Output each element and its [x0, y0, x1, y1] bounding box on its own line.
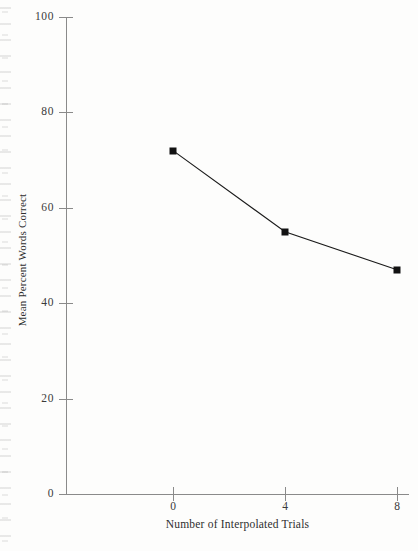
y-axis-line [66, 17, 67, 495]
x-tick-label: 0 [158, 501, 188, 513]
x-tick-label: 4 [270, 501, 300, 513]
y-tick-mark [59, 17, 73, 18]
y-tick-label: 20 [14, 393, 54, 405]
scan-artifact-left-secondary [2, 0, 8, 551]
y-tick-mark [59, 303, 73, 304]
x-tick-mark [173, 487, 174, 501]
y-tick-mark [59, 399, 73, 400]
y-tick-label-wrap: 0 [10, 488, 54, 500]
y-tick-label-wrap: 20 [10, 393, 54, 405]
y-tick-mark [59, 112, 73, 113]
x-axis-line [66, 494, 409, 495]
y-tick-label: 0 [14, 488, 54, 500]
y-tick-label-wrap: 100 [10, 11, 54, 23]
x-tick-mark [285, 487, 286, 501]
x-axis-title: Number of Interpolated Trials [66, 518, 409, 530]
chart-figure: 100806040200 048 Mean Percent Words Corr… [0, 0, 418, 551]
x-tick-mark [397, 487, 398, 501]
y-tick-label: 100 [14, 11, 54, 23]
data-point-marker [282, 228, 289, 235]
y-tick-label-wrap: 80 [10, 106, 54, 118]
y-tick-mark [59, 494, 73, 495]
data-point-marker [394, 266, 401, 273]
y-tick-label: 80 [14, 106, 54, 118]
x-tick-label: 8 [382, 501, 412, 513]
y-axis-title: Mean Percent Words Correct [16, 194, 28, 327]
data-line-layer [0, 0, 418, 551]
scan-artifact-left [0, 0, 11, 551]
data-point-marker [170, 147, 177, 154]
y-tick-mark [59, 208, 73, 209]
